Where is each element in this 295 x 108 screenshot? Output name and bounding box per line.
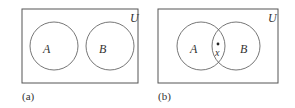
set-b-circle [86,22,134,70]
set-a-circle [30,22,78,70]
universe-label: U [268,11,278,25]
panel-b: A B x U (b) [158,9,278,103]
set-b-circle [212,22,260,70]
set-b-label: B [240,42,248,56]
element-label: x [214,47,220,58]
caption-a: (a) [22,90,35,103]
set-a-label: A [189,42,198,56]
panel-a: A B U (a) [22,9,140,103]
universe-rect-a [22,9,138,83]
set-a-circle [177,22,225,70]
element-point [217,43,220,46]
universe-label: U [130,11,140,25]
venn-diagrams: A B U (a) A B x U (b) [0,0,295,108]
set-a-label: A [42,42,51,56]
caption-b: (b) [158,90,171,103]
set-b-label: B [99,42,107,56]
